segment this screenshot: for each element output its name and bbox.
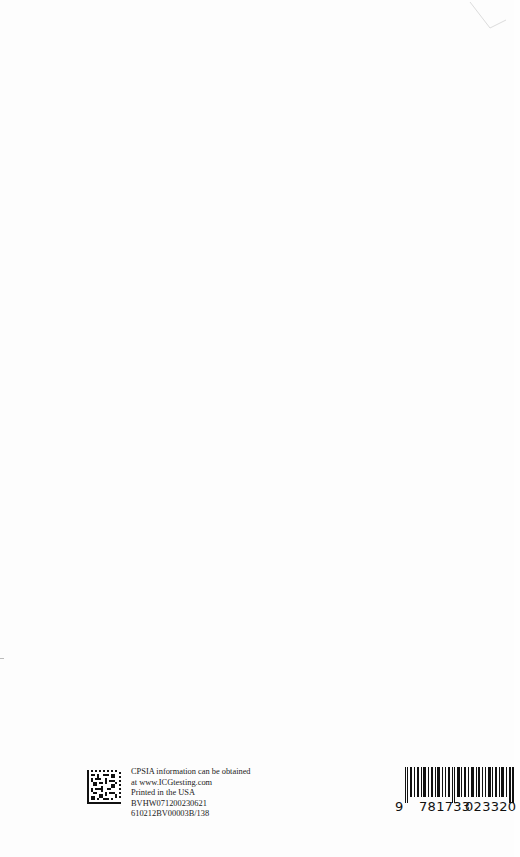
isbn-lead-digit: 9: [395, 799, 404, 814]
data-matrix-code-icon: [87, 770, 121, 804]
colophon-line-cpsia: CPSIA information can be obtained: [131, 767, 251, 778]
cpsia-colophon: CPSIA information can be obtained at www…: [131, 767, 251, 820]
colophon-line-batch-code: BVHW071200230621: [131, 799, 251, 810]
isbn-digit-group-1: 781733: [419, 799, 470, 814]
colophon-line-website: at www.ICGtesting.com: [131, 778, 251, 789]
isbn-barcode-icon: [395, 767, 514, 803]
colophon-line-print-code: 610212BV00003B/138: [131, 809, 251, 820]
isbn-barcode: 9 781733 023320: [395, 767, 514, 814]
isbn-digits: 9 781733 023320: [395, 799, 520, 815]
isbn-digit-group-2: 023320: [465, 799, 516, 814]
page-corner-fold-icon: [434, 0, 514, 40]
colophon-line-printed-in: Printed in the USA: [131, 788, 251, 799]
stray-mark: [0, 658, 4, 659]
